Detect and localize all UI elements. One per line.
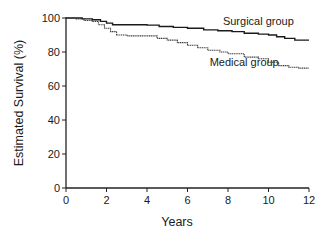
x-tick-label: 10 [262, 194, 274, 206]
x-axis-title: Years [161, 215, 193, 229]
survival-chart: Estimated Survival (%) Years 02040608010… [0, 0, 329, 237]
curve-labels: Surgical groupMedical group [210, 15, 294, 68]
y-tick-label: 80 [48, 46, 60, 58]
y-tick-label: 40 [48, 114, 60, 126]
x-tick-label: 8 [225, 194, 231, 206]
y-axis-ticks: 020406080100 [42, 12, 66, 194]
y-axis-title: Estimated Survival (%) [12, 40, 26, 166]
surgical-group-label: Surgical group [223, 15, 294, 27]
y-tick-label: 60 [48, 80, 60, 92]
x-tick-label: 6 [184, 194, 190, 206]
medical-group-label: Medical group [210, 56, 279, 68]
y-tick-label: 20 [48, 148, 60, 160]
x-axis-ticks: 024681012 [63, 188, 315, 206]
y-tick-label: 100 [42, 12, 60, 24]
x-tick-label: 4 [144, 194, 150, 206]
x-tick-label: 2 [103, 194, 109, 206]
x-tick-label: 12 [303, 194, 315, 206]
y-tick-label: 0 [54, 182, 60, 194]
x-tick-label: 0 [63, 194, 69, 206]
